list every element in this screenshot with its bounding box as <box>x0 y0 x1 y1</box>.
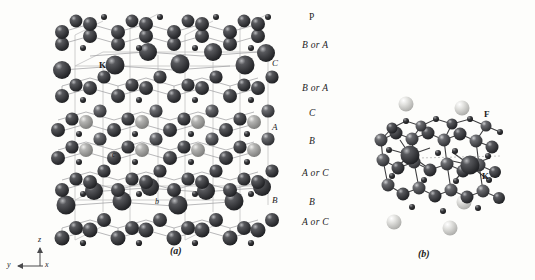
atom-label-f-panel-b: F <box>484 110 490 119</box>
panel-caption-a: (a) <box>170 246 182 256</box>
atom-label-k-panel-b: K <box>482 172 489 181</box>
fluorine-atom-labeled <box>455 101 470 116</box>
fluorine-atom <box>399 97 414 112</box>
axis-label-z: z <box>38 236 41 244</box>
potassium-atom <box>401 146 420 165</box>
axis-label-x: x <box>45 261 49 269</box>
stacking-label-p: P <box>309 13 315 23</box>
stacking-label-b-1: B <box>309 137 315 147</box>
stacking-label-c: C <box>309 109 316 119</box>
stacking-label-aorc-2: A or C <box>302 218 329 228</box>
stacking-label-bora-2: B or A <box>302 84 328 94</box>
stacking-label-b-2: B <box>309 198 315 208</box>
figure-canvas <box>0 0 535 280</box>
fluorine-atom <box>443 221 458 236</box>
panel-caption-b: (b) <box>418 249 430 259</box>
atom-label-k-dash-panel-b: - <box>494 174 497 182</box>
stacking-label-bora-1: B or A <box>302 41 328 51</box>
cell-vector-label-c: c <box>112 151 116 159</box>
axis-indicator <box>12 236 60 272</box>
atom-label-k-panel-a: K <box>99 61 106 70</box>
stacking-label-aorc-1: A or C <box>302 169 329 179</box>
fluorine-atom <box>387 215 402 230</box>
cell-vector-label-b: b <box>155 198 159 206</box>
inner-layer-label-b: B <box>272 196 278 205</box>
inner-layer-label-c: C <box>272 59 278 68</box>
inner-layer-label-a: A <box>272 123 278 132</box>
axis-label-y: y <box>7 261 11 269</box>
potassium-atom-labeled <box>461 156 480 175</box>
